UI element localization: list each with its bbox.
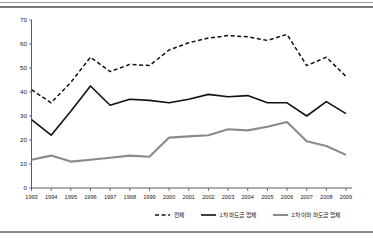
header-rule-thin — [0, 2, 373, 3]
x-tick-label: 2009 — [340, 194, 352, 200]
x-tick-label: 2007 — [300, 194, 312, 200]
legend-label-2: 1차 하도급 업체 — [220, 211, 256, 219]
x-tick-label: 2002 — [202, 194, 214, 200]
x-tick-label: 2004 — [241, 194, 253, 200]
x-tick-label: 2003 — [222, 194, 234, 200]
x-tick-label: 1996 — [84, 194, 96, 200]
series-line-tier2 — [32, 122, 347, 162]
x-tick-label: 2001 — [183, 194, 195, 200]
y-tick-label: 0 — [24, 184, 28, 191]
x-tick-label: 2008 — [320, 194, 332, 200]
x-axis-ticks: 1993199419951996199719981999200020012002… — [25, 188, 352, 200]
chart-legend: 전체1차 하도급 업체2차 이하 하도급 업체 — [155, 211, 340, 219]
y-tick-label: 50 — [20, 64, 27, 71]
x-tick-label: 1995 — [65, 194, 77, 200]
header-rule-thick — [0, 6, 373, 8]
y-axis-ticks: 010203040506070 — [20, 16, 31, 191]
x-tick-label: 2000 — [163, 194, 175, 200]
x-tick-label: 2006 — [281, 194, 293, 200]
x-tick-label: 1999 — [143, 194, 155, 200]
y-tick-label: 60 — [20, 40, 27, 47]
series-line-tier1 — [32, 86, 347, 135]
x-tick-label: 1994 — [45, 194, 57, 200]
legend-label-1: 전체 — [174, 211, 184, 219]
x-tick-label: 2005 — [261, 194, 273, 200]
chart-figure: 010203040506070 199319941995199619971998… — [0, 0, 373, 239]
series-line-total — [32, 34, 347, 102]
x-tick-label: 1998 — [124, 194, 136, 200]
y-tick-label: 30 — [20, 112, 27, 119]
footer-rule — [0, 231, 373, 233]
y-tick-label: 10 — [20, 160, 27, 167]
x-tick-label: 1993 — [25, 194, 37, 200]
y-tick-label: 70 — [20, 16, 27, 23]
y-tick-label: 20 — [20, 136, 27, 143]
x-tick-label: 1997 — [104, 194, 116, 200]
y-tick-label: 40 — [20, 88, 27, 95]
legend-label-3: 2차 이하 하도급 업체 — [292, 211, 340, 219]
line-chart: 010203040506070 199319941995199619971998… — [0, 10, 373, 230]
